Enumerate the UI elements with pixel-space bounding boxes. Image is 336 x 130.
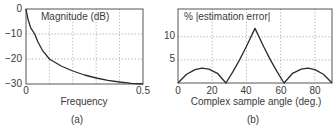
b-xtick-20: 20 — [206, 86, 217, 96]
a-xtick-1: 0.5 — [136, 86, 150, 96]
b-xlabel: Complex sample angle (deg.) — [191, 97, 322, 107]
figure: 0 −10 −20 −30 0 0.5 Magnitude (dB) Frequ… — [0, 0, 336, 130]
a-xtick-0: 0 — [23, 86, 29, 96]
a-title: Magnitude (dB) — [41, 12, 109, 22]
b-xtick-80: 80 — [309, 86, 320, 96]
a-ytick-2: −20 — [5, 54, 22, 64]
b-caption: (b) — [247, 115, 259, 125]
b-ytick-5: 5 — [169, 54, 175, 64]
b-xtick-60: 60 — [275, 86, 286, 96]
a-ytick-0: 0 — [16, 4, 22, 14]
a-xlabel: Frequency — [60, 97, 107, 107]
b-ytick-10: 10 — [164, 31, 175, 41]
a-ytick-1: −10 — [5, 29, 22, 39]
b-xtick-0: 0 — [175, 86, 181, 96]
b-title: % |estimation error| — [184, 12, 270, 22]
a-ytick-3: −30 — [5, 79, 22, 89]
a-caption: (a) — [71, 115, 83, 125]
b-xtick-40: 40 — [240, 86, 251, 96]
